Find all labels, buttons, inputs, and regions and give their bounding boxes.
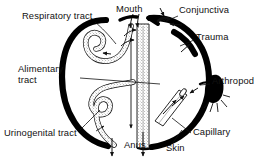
label-trauma: Trauma [196, 32, 229, 43]
label-urinogenital-tract: Urinogenital tract [4, 128, 77, 139]
figure-canvas: Respiratory tract Mouth Conjunctiva Trau… [0, 0, 271, 165]
label-alimentary-tract: Alimentary tract [18, 64, 80, 85]
capillary-tube [155, 88, 188, 126]
urinogenital-tract-tube [91, 82, 133, 145]
label-conjunctiva: Conjunctiva [179, 5, 229, 16]
label-capillary: Capillary [193, 127, 230, 138]
label-arthropod: Arthropod [212, 76, 254, 87]
label-skin: Skin [166, 143, 185, 154]
alimentary-tract-tube [131, 24, 149, 148]
label-anus: Anus [124, 140, 146, 151]
label-mouth: Mouth [116, 4, 143, 15]
label-respiratory-tract: Respiratory tract [22, 11, 92, 22]
